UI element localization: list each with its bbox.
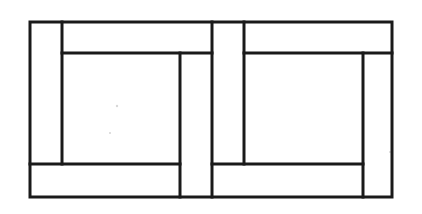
region-left-vertical-stile <box>30 22 62 164</box>
framed-panel-diagram <box>0 0 422 214</box>
paper-speck-upper-icon <box>116 105 118 107</box>
region-left-sill-rail <box>30 164 180 197</box>
diagram-root <box>0 0 422 214</box>
region-right-center-panel <box>244 53 363 164</box>
region-right-end-stile <box>363 53 392 197</box>
region-left-center-panel <box>62 53 180 164</box>
region-right-sill-rail <box>212 164 363 197</box>
region-right-head-rail <box>244 22 392 53</box>
region-left-head-rail <box>62 22 212 53</box>
paper-speck-lower-icon <box>109 132 111 134</box>
region-left-right-stile <box>180 53 212 197</box>
